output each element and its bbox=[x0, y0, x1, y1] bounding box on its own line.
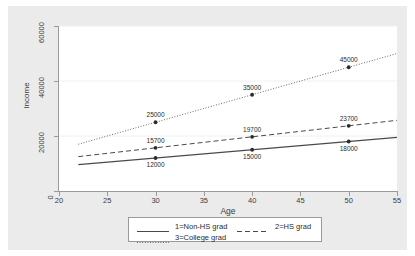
legend-entry-nonhs: 1=Non-HS grad bbox=[136, 221, 227, 232]
y-axis-title: Income bbox=[22, 66, 31, 126]
x-tick-label: 40 bbox=[237, 196, 267, 205]
y-tick-label: 60000 bbox=[37, 22, 46, 43]
y-tick-label-wrap: 20000 bbox=[8, 131, 52, 141]
x-tick-label: 45 bbox=[285, 196, 315, 205]
x-tick-label: 20 bbox=[44, 196, 74, 205]
legend-label-college: 3=College grad bbox=[175, 233, 226, 242]
x-axis-title: Age bbox=[59, 206, 397, 216]
x-tick-label: 30 bbox=[141, 196, 171, 205]
data-point-markers-group bbox=[154, 65, 351, 160]
y-tick-label-wrap: 60000 bbox=[8, 21, 52, 31]
x-axis-line bbox=[58, 191, 398, 192]
data-point-label: 35000 bbox=[232, 84, 272, 91]
graph-canvas: 0200004000060000 2025303540455055 Income… bbox=[8, 6, 407, 250]
data-point-marker bbox=[154, 120, 158, 124]
y-tick-label: 40000 bbox=[37, 77, 46, 98]
data-point-marker bbox=[347, 140, 351, 144]
data-point-marker bbox=[250, 93, 254, 97]
data-point-marker bbox=[250, 135, 254, 139]
y-axis-tick bbox=[54, 81, 58, 82]
y-axis-tick bbox=[54, 191, 58, 192]
legend-label-nonhs: 1=Non-HS grad bbox=[175, 222, 227, 231]
y-tick-label-wrap: 0 bbox=[8, 186, 52, 196]
data-point-label: 12000 bbox=[136, 161, 176, 168]
y-tick-label: 20000 bbox=[37, 132, 46, 153]
data-point-marker bbox=[347, 124, 351, 128]
legend-key-dotted-icon bbox=[136, 233, 170, 242]
legend-label-hs: 2=HS grad bbox=[275, 222, 311, 231]
data-point-label: 15000 bbox=[232, 153, 272, 160]
data-point-label: 18000 bbox=[329, 145, 369, 152]
data-point-marker bbox=[347, 65, 351, 69]
data-point-label: 25000 bbox=[136, 111, 176, 118]
data-point-marker bbox=[250, 148, 254, 152]
y-axis-tick bbox=[54, 26, 58, 27]
data-point-label: 15700 bbox=[136, 137, 176, 144]
x-tick-label: 35 bbox=[189, 196, 219, 205]
data-point-label: 19700 bbox=[232, 126, 272, 133]
data-point-marker bbox=[154, 146, 158, 150]
legend-key-dashed-icon bbox=[236, 222, 270, 231]
y-axis-line bbox=[58, 26, 59, 192]
data-point-label: 45000 bbox=[329, 56, 369, 63]
legend-key-solid-icon bbox=[136, 222, 170, 231]
legend-entry-college: 3=College grad bbox=[136, 232, 226, 243]
legend-box: 1=Non-HS grad 2=HS grad 3=College grad bbox=[128, 217, 322, 242]
legend-entry-hs: 2=HS grad bbox=[236, 221, 311, 232]
chart-screenshot: 0200004000060000 2025303540455055 Income… bbox=[0, 0, 415, 256]
x-tick-label: 50 bbox=[334, 196, 364, 205]
x-tick-label: 55 bbox=[382, 196, 412, 205]
data-point-label: 23700 bbox=[329, 115, 369, 122]
data-point-marker bbox=[154, 156, 158, 160]
plot-svg bbox=[59, 26, 397, 191]
x-tick-label: 25 bbox=[92, 196, 122, 205]
y-axis-tick bbox=[54, 136, 58, 137]
plot-region bbox=[59, 26, 397, 191]
